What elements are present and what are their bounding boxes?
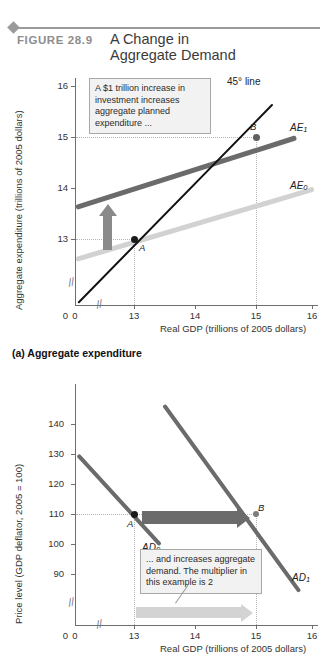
panel-b-ytick-110 [71, 514, 75, 515]
panel-b-xtick-14 [195, 625, 196, 629]
panel-b-xtick-16 [312, 625, 313, 629]
panel-a-ytick-15 [71, 137, 75, 138]
shift-arrow-up-head [99, 204, 117, 216]
panel-a-xlabel-15: 15 [244, 310, 268, 321]
panel-b-x-axis-break: // [94, 617, 104, 630]
label-ae1-text: AE [290, 122, 303, 133]
panel-b-xtick-13 [134, 625, 135, 629]
figure-number: FIGURE 28.9 [17, 34, 93, 46]
panel-a-callout-note: A $1 trillion increase in investment inc… [89, 78, 211, 134]
panel-a-x-axis-break: // [94, 297, 104, 310]
panel-b-x-axis-title: Real GDP (trillions of 2005 dollars) [160, 643, 306, 654]
panel-a-ytick-14 [71, 188, 75, 189]
panel-a-ytick-16 [71, 86, 75, 87]
gdp-arrow-head [241, 604, 253, 622]
panel-a-caption: (a) Aggregate expenditure [12, 347, 142, 359]
label-ad1-subscript: 1 [306, 575, 310, 584]
label-ae1: AE1 [290, 122, 308, 134]
panel-a-gridline-v-15 [256, 137, 257, 305]
panel-a-x-axis [75, 305, 318, 306]
label-45-degree-line: 45° line [227, 76, 260, 87]
point-a-marker [131, 236, 138, 243]
panel-aggregate-demand: Price level (GDP deflator, 2005 = 100) 1… [0, 376, 329, 667]
panel-b-ytick-120 [71, 484, 75, 485]
label-ae0-text: AE [290, 180, 303, 191]
label-ae0: AE0 [290, 180, 308, 192]
panel-a-xlabel-0: 0 [63, 310, 87, 321]
panel-a-ylabel-14: 14 [44, 182, 68, 193]
panel-a-gridline-h-15 [76, 137, 256, 138]
panel-b-y-axis [75, 384, 76, 626]
panel-b-x-axis [75, 625, 318, 626]
panel-b-y-axis-title: Price level (GDP deflator, 2005 = 100) [13, 464, 24, 624]
panel-a-ylabel-16: 16 [44, 80, 68, 91]
panel-a-ylabel-15: 15 [44, 131, 68, 142]
panel-b-ylabel-130: 130 [40, 448, 64, 459]
panel-a-xlabel-14: 14 [183, 310, 207, 321]
panel-b-gridline-v-13 [134, 514, 135, 625]
panel-b-point-a-marker [131, 511, 138, 518]
figure-title-line2: Aggregate Demand [110, 47, 320, 63]
panel-a-xlabel-16: 16 [300, 310, 324, 321]
panel-b-ylabel-90: 90 [40, 568, 64, 579]
panel-a-xtick-15 [256, 305, 257, 309]
label-ad1-text: AD [292, 572, 306, 583]
label-ad1: AD1 [292, 572, 310, 584]
figure-title: A Change in Aggregate Demand [110, 31, 320, 63]
panel-b-xtick-15 [256, 625, 257, 629]
panel-a-ytick-13 [71, 239, 75, 240]
panel-aggregate-expenditure: Aggregate expenditure (trillions of 2005… [0, 64, 329, 344]
point-a-label: A [139, 242, 145, 253]
shift-arrow-right-shaft [142, 511, 237, 524]
panel-a-xlabel-13: 13 [122, 310, 146, 321]
panel-a-xtick-13 [134, 305, 135, 309]
panel-b-callout-note: ... and increases aggregate demand. The … [140, 549, 262, 594]
panel-b-ytick-90 [71, 574, 75, 575]
panel-b-ylabel-120: 120 [40, 478, 64, 489]
panel-b-xlabel-0: 0 [63, 630, 87, 641]
point-b-label: B [250, 121, 256, 132]
shift-arrow-right-head [237, 508, 250, 528]
label-ae0-subscript: 0 [303, 183, 307, 192]
panel-b-xlabel-16: 16 [300, 630, 324, 641]
panel-b-xlabel-15: 15 [244, 630, 268, 641]
curve-ad0 [77, 454, 162, 546]
panel-b-point-a-label: A [127, 518, 133, 529]
panel-a-gridline-v-13 [134, 239, 135, 305]
panel-a-y-axis [75, 78, 76, 306]
panel-b-ylabel-110: 110 [40, 508, 64, 519]
panel-b-ylabel-140: 140 [40, 418, 64, 429]
curve-ae1 [75, 135, 297, 209]
panel-b-xlabel-14: 14 [183, 630, 207, 641]
figure-title-line1: A Change in [110, 31, 320, 47]
panel-a-ylabel-13: 13 [44, 233, 68, 244]
shift-arrow-up-shaft [103, 216, 112, 250]
header-rule [14, 27, 320, 29]
gdp-arrow-shaft [136, 607, 241, 618]
point-b-marker [253, 134, 260, 141]
panel-b-ytick-140 [71, 424, 75, 425]
panel-a-y-axis-title: Aggregate expenditure (trillions of 2005… [13, 110, 24, 310]
panel-b-xlabel-13: 13 [122, 630, 146, 641]
panel-a-xtick-14 [195, 305, 196, 309]
figure-header: FIGURE 28.9 A Change in Aggregate Demand [0, 18, 329, 64]
label-ae1-subscript: 1 [303, 125, 307, 134]
panel-b-ylabel-100: 100 [40, 538, 64, 549]
panel-a-xtick-16 [312, 305, 313, 309]
panel-b-point-b-label: B [258, 502, 264, 513]
panel-b-ytick-130 [71, 454, 75, 455]
panel-a-x-axis-title: Real GDP (trillions of 2005 dollars) [160, 323, 306, 334]
panel-b-ytick-100 [71, 544, 75, 545]
